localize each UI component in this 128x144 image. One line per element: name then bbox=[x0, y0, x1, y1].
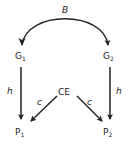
node-p1: P1 bbox=[15, 128, 24, 138]
node-g1: G1 bbox=[15, 52, 26, 62]
label-h-left: h bbox=[7, 87, 13, 96]
node-g2-sub: 2 bbox=[110, 55, 114, 62]
arrow-ce-p1 bbox=[31, 96, 57, 121]
label-h-right: h bbox=[116, 87, 122, 96]
node-g1-base: G bbox=[15, 51, 22, 61]
label-c-left: c bbox=[37, 98, 42, 107]
node-g1-sub: 1 bbox=[22, 55, 26, 62]
diagram-canvas bbox=[0, 0, 128, 144]
arrowhead-left-icon bbox=[19, 38, 26, 46]
label-c-right: c bbox=[87, 98, 92, 107]
label-b: B bbox=[62, 6, 68, 15]
node-g2: G2 bbox=[103, 52, 114, 62]
curved-arrow-g1-g2 bbox=[22, 19, 108, 45]
node-ce: CE bbox=[58, 88, 70, 97]
node-p2: P2 bbox=[103, 128, 112, 138]
node-p1-sub: 1 bbox=[20, 131, 24, 138]
node-p2-sub: 2 bbox=[108, 131, 112, 138]
node-g2-base: G bbox=[103, 51, 110, 61]
